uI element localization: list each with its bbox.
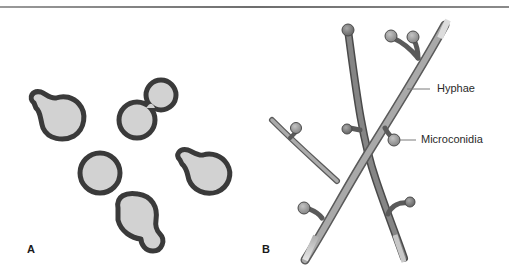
yeast-cell-budding xyxy=(178,150,230,194)
callout-hyphae: Hyphae xyxy=(437,82,475,94)
panel-a-cells xyxy=(31,80,230,251)
callout-microconidia: Microconidia xyxy=(421,133,483,145)
panel-label-b: B xyxy=(262,243,270,255)
yeast-cell-budding xyxy=(118,194,163,251)
panel-label-a: A xyxy=(27,243,35,255)
yeast-cell-pair xyxy=(119,80,176,138)
yeast-cell-round xyxy=(80,153,120,193)
yeast-cell-budding xyxy=(31,92,84,139)
hypha-side-branch xyxy=(272,120,337,181)
